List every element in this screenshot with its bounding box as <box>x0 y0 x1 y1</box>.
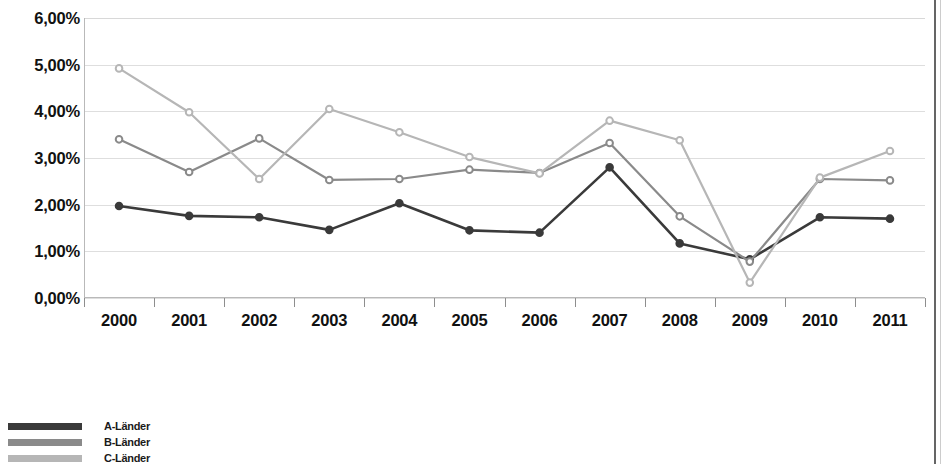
legend-label: A-Länder <box>104 420 150 433</box>
page-edge-line-secondary <box>940 0 941 464</box>
y-axis-tick-label: 5,00% <box>6 57 80 74</box>
x-axis-tick <box>84 298 85 307</box>
line-chart: 6,00%5,00%4,00%3,00%2,00%1,00%0,00% 2000… <box>0 0 943 464</box>
x-axis-tick <box>364 298 365 307</box>
data-point <box>536 170 543 177</box>
plot-area <box>84 18 925 298</box>
data-point <box>186 169 193 176</box>
data-point <box>396 200 403 207</box>
x-axis-tick <box>575 298 576 307</box>
x-axis-tick <box>715 298 716 307</box>
x-axis-tick <box>645 298 646 307</box>
data-point <box>536 229 543 236</box>
x-axis-tick-label: 2006 <box>522 312 558 329</box>
series-line <box>119 68 890 282</box>
data-point <box>256 135 263 142</box>
y-axis-tick-label: 4,00% <box>6 103 80 120</box>
y-axis: 6,00%5,00%4,00%3,00%2,00%1,00%0,00% <box>0 0 80 320</box>
x-axis-tick-label: 2003 <box>311 312 347 329</box>
x-axis-tick-label: 2004 <box>381 312 417 329</box>
x-axis-tick <box>434 298 435 307</box>
data-point <box>606 140 613 147</box>
data-point <box>466 166 473 173</box>
data-point <box>676 240 683 247</box>
data-point <box>116 203 123 210</box>
legend-label: B-Länder <box>104 436 150 449</box>
x-axis-tick-label: 2007 <box>592 312 628 329</box>
y-axis-tick-label: 0,00% <box>6 290 80 307</box>
series-a-l-nder <box>116 164 894 263</box>
legend-color-swatch <box>8 455 82 462</box>
data-point <box>887 215 894 222</box>
y-axis-tick-label: 2,00% <box>6 197 80 214</box>
x-axis-tick-label: 2008 <box>662 312 698 329</box>
x-axis-tick <box>224 298 225 307</box>
page-edge-line <box>934 0 936 464</box>
x-axis-tick-label: 2002 <box>241 312 277 329</box>
data-point <box>186 109 193 116</box>
data-point <box>116 65 123 72</box>
x-axis-tick <box>925 298 926 307</box>
data-point <box>466 227 473 234</box>
x-axis-tick <box>154 298 155 307</box>
x-axis-tick-label: 2000 <box>101 312 137 329</box>
x-axis-tick <box>505 298 506 307</box>
legend-color-swatch <box>8 423 82 430</box>
data-point <box>676 213 683 220</box>
data-point <box>396 129 403 136</box>
data-point <box>887 148 894 155</box>
legend-label: C-Länder <box>104 452 150 464</box>
legend-color-swatch <box>8 439 82 446</box>
y-axis-tick-label: 1,00% <box>6 243 80 260</box>
series-c-l-nder <box>116 65 894 286</box>
series-layer <box>84 18 925 298</box>
x-axis-tick-label: 2005 <box>452 312 488 329</box>
x-axis-tick-label: 2011 <box>872 312 907 329</box>
x-axis: 2000200120022003200420052006200720082009… <box>84 298 925 340</box>
x-axis-tick-label: 2010 <box>802 312 838 329</box>
data-point <box>256 214 263 221</box>
legend-item: B-Länder <box>8 436 308 450</box>
data-point <box>606 164 613 171</box>
data-point <box>326 177 333 184</box>
data-point <box>186 213 193 220</box>
data-point <box>256 176 263 183</box>
x-axis-tick <box>294 298 295 307</box>
legend-item: C-Länder <box>8 452 308 464</box>
data-point <box>817 214 824 221</box>
data-point <box>746 279 753 286</box>
data-point <box>676 137 683 144</box>
data-point <box>817 174 824 181</box>
x-axis-tick-label: 2009 <box>732 312 768 329</box>
data-point <box>746 258 753 265</box>
data-point <box>326 227 333 234</box>
data-point <box>606 117 613 124</box>
x-axis-tick <box>785 298 786 307</box>
data-point <box>887 177 894 184</box>
x-axis-tick-label: 2001 <box>171 312 207 329</box>
data-point <box>466 154 473 161</box>
data-point <box>326 106 333 113</box>
data-point <box>396 176 403 183</box>
data-point <box>116 136 123 143</box>
x-axis-tick <box>855 298 856 307</box>
chart-legend: A-LänderB-LänderC-Länder <box>8 420 308 464</box>
legend-item: A-Länder <box>8 420 308 434</box>
y-axis-tick-label: 6,00% <box>6 10 80 27</box>
y-axis-tick-label: 3,00% <box>6 150 80 167</box>
